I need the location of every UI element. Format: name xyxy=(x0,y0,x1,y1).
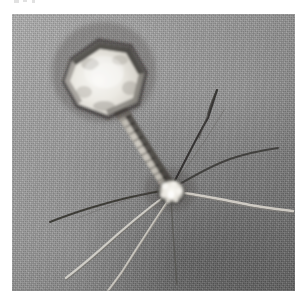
baseplate xyxy=(156,178,186,204)
fiber-upper-right-return xyxy=(208,90,217,114)
scan-artifact-mark xyxy=(14,0,19,3)
scan-artifact-mark xyxy=(32,0,35,3)
bacteriophage-specimen xyxy=(12,14,295,291)
fiber-lower-left-a-core xyxy=(66,195,168,280)
scan-artifact-mark xyxy=(23,0,27,2)
tail-sheath-highlight xyxy=(120,116,168,190)
fiber-lower-left-b-glow xyxy=(99,198,170,291)
fiber-upper-right-tip xyxy=(199,114,208,138)
micrograph-bottom-edge xyxy=(12,290,295,291)
page-root xyxy=(0,0,305,304)
capsid-highlight xyxy=(84,56,124,88)
bacteriophage-micrograph xyxy=(12,14,295,291)
fiber-right-lower-glow xyxy=(175,192,293,211)
